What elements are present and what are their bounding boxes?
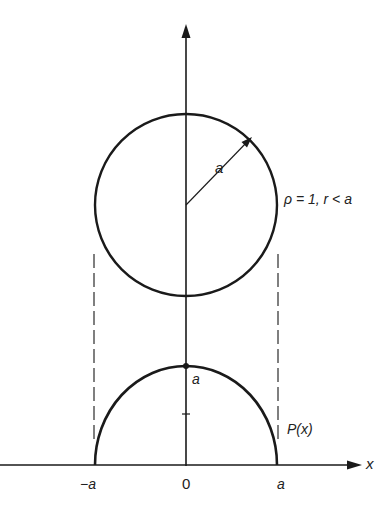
projection-label: P(x) — [287, 422, 313, 436]
x-axis-arrow-icon — [347, 461, 362, 470]
peak-label: a — [192, 372, 200, 386]
sphere-projection-diagram: a ρ = 1, r < a a P(x) x −a 0 a — [0, 0, 383, 506]
tick-label-neg-a: −a — [80, 477, 96, 491]
radius-label: a — [215, 160, 223, 175]
peak-dot — [183, 363, 189, 369]
x-axis-label: x — [366, 456, 374, 471]
vertical-axis-arrow-icon — [182, 24, 191, 38]
tick-label-zero: 0 — [182, 476, 190, 491]
tick-label-pos-a: a — [277, 477, 285, 491]
density-label: ρ = 1, r < a — [284, 192, 352, 206]
